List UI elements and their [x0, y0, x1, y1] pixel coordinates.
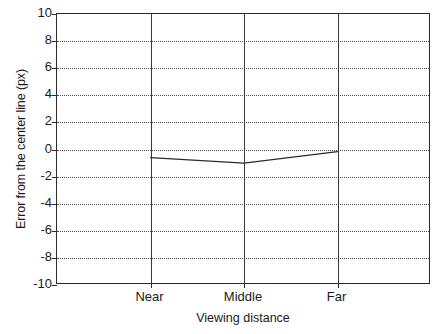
y-tick-mark	[52, 150, 57, 151]
plot-inner	[57, 14, 429, 283]
x-tick-label: Far	[277, 290, 397, 304]
y-tick-label: -10	[26, 277, 52, 290]
y-tick-label: 6	[26, 60, 52, 73]
horizontal-gridline	[57, 258, 429, 259]
y-tick-mark	[52, 41, 57, 42]
y-tick-label: 4	[26, 87, 52, 100]
y-tick-mark	[52, 231, 57, 232]
plot-area	[56, 13, 430, 284]
horizontal-gridline	[57, 204, 429, 205]
x-tick-mark	[244, 283, 245, 288]
horizontal-gridline	[57, 95, 429, 96]
vertical-gridline	[338, 14, 339, 283]
vertical-gridline	[151, 14, 152, 283]
vertical-gridline	[244, 14, 245, 283]
y-tick-label: 8	[26, 33, 52, 46]
y-axis-tick-labels: 1086420-2-4-6-8-10	[24, 0, 52, 334]
y-tick-mark	[52, 285, 57, 286]
horizontal-gridline	[57, 122, 429, 123]
y-tick-mark	[52, 177, 57, 178]
y-tick-label: -2	[26, 169, 52, 182]
y-tick-mark	[52, 68, 57, 69]
horizontal-gridline	[57, 68, 429, 69]
y-tick-mark	[52, 95, 57, 96]
y-tick-mark	[52, 14, 57, 15]
y-tick-mark	[52, 122, 57, 123]
x-tick-mark	[338, 283, 339, 288]
y-tick-label: 0	[26, 142, 52, 155]
y-tick-mark	[52, 258, 57, 259]
y-tick-mark	[52, 204, 57, 205]
y-tick-label: -6	[26, 223, 52, 236]
x-axis-title: Viewing distance	[56, 311, 430, 325]
horizontal-gridline	[57, 41, 429, 42]
chart-figure: Error from the center line (px) 1086420-…	[0, 0, 440, 334]
horizontal-gridline	[57, 231, 429, 232]
y-tick-label: -8	[26, 250, 52, 263]
y-tick-label: -4	[26, 196, 52, 209]
x-tick-mark	[151, 283, 152, 288]
horizontal-gridline	[57, 177, 429, 178]
y-tick-label: 10	[26, 6, 52, 19]
y-tick-label: 2	[26, 114, 52, 127]
horizontal-gridline	[57, 150, 429, 151]
